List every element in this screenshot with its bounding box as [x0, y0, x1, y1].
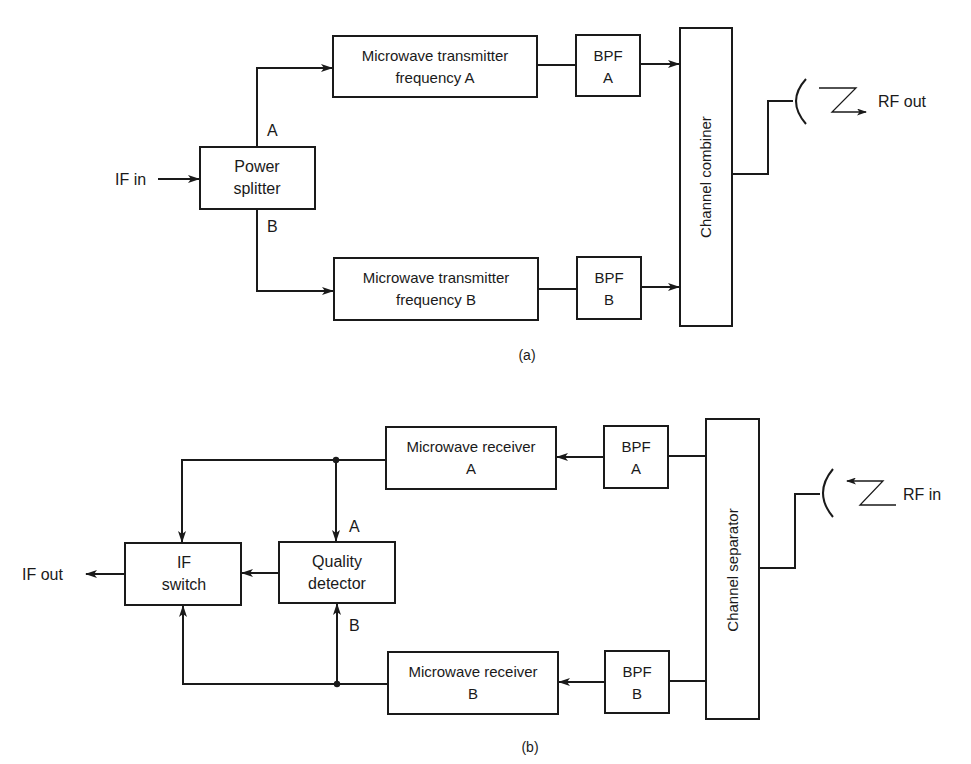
- rf-out-lightning-icon: [819, 88, 866, 112]
- transmitter-a-block: Microwave transmitter frequency A: [333, 36, 537, 97]
- diversity-block-diagram: IF in Power splitter A B Microwave trans…: [0, 0, 971, 764]
- receiver-b-block: Microwave receiver B: [388, 652, 558, 714]
- bpf-b-rx-line1: BPF: [622, 663, 651, 680]
- bpf-a-rx-line2: A: [631, 460, 641, 477]
- transmitter-b-line2: frequency B: [396, 291, 476, 308]
- bpf-a-tx-line2: A: [603, 69, 613, 86]
- channel-combiner-block: Channel combiner: [680, 28, 732, 326]
- figure-b-receiver: Channel separator RF in BPF A BPF B Micr…: [22, 419, 941, 755]
- rf-in-lightning-icon: [847, 481, 896, 505]
- bpf-a-tx-block: BPF A: [576, 35, 640, 96]
- channel-separator-label: Channel separator: [724, 508, 741, 631]
- power-splitter-line2: splitter: [233, 180, 281, 197]
- receiver-a-line1: Microwave receiver: [406, 438, 535, 455]
- if-in-label: IF in: [115, 171, 146, 188]
- tx-antenna-feed: [732, 101, 793, 174]
- if-out-label: IF out: [22, 566, 63, 583]
- detector-input-b-label: B: [349, 617, 360, 634]
- bpf-b-rx-line2: B: [632, 685, 642, 702]
- receiver-a-block: Microwave receiver A: [386, 427, 556, 489]
- transmitter-a-line1: Microwave transmitter: [362, 47, 509, 64]
- if-switch-line1: IF: [177, 554, 191, 571]
- if-switch-line2: switch: [162, 576, 206, 593]
- quality-detector-block: Quality detector: [279, 542, 395, 603]
- quality-detector-line1: Quality: [312, 553, 362, 570]
- branch-a-label: A: [267, 122, 278, 139]
- rf-in-label: RF in: [903, 486, 941, 503]
- transmitter-a-line2: frequency A: [395, 69, 474, 86]
- junction-dot-b: [334, 681, 340, 687]
- bpf-a-tx-line1: BPF: [593, 47, 622, 64]
- transmitter-b-block: Microwave transmitter frequency B: [334, 258, 538, 320]
- bpf-a-rx-block: BPF A: [604, 426, 668, 488]
- rf-out-label: RF out: [878, 93, 927, 110]
- power-splitter-line1: Power: [234, 158, 280, 175]
- receiver-b-line2: B: [468, 685, 478, 702]
- receiver-b-line1: Microwave receiver: [408, 663, 537, 680]
- bpf-b-tx-block: BPF B: [577, 257, 641, 319]
- junction-dot-a: [333, 457, 339, 463]
- transmitter-b-line1: Microwave transmitter: [363, 269, 510, 286]
- bpf-b-tx-line2: B: [604, 291, 614, 308]
- figure-a-caption: (a): [518, 347, 535, 363]
- quality-detector-line2: detector: [308, 575, 366, 592]
- power-splitter-block: Power splitter: [200, 147, 315, 209]
- rx-antenna-dish-icon: [823, 469, 833, 517]
- receiver-a-line2: A: [466, 460, 476, 477]
- bpf-b-tx-line1: BPF: [594, 269, 623, 286]
- figure-b-caption: (b): [521, 739, 538, 755]
- if-switch-block: IF switch: [125, 543, 241, 605]
- bpf-b-rx-block: BPF B: [605, 651, 669, 713]
- rx-antenna-feed: [759, 494, 820, 568]
- tx-antenna-dish-icon: [796, 79, 806, 124]
- branch-b-label: B: [267, 218, 278, 235]
- channel-combiner-label: Channel combiner: [697, 116, 714, 238]
- channel-separator-block: Channel separator: [706, 419, 759, 719]
- detector-input-a-label: A: [349, 518, 360, 535]
- figure-a-transmitter: IF in Power splitter A B Microwave trans…: [115, 28, 927, 363]
- bpf-a-rx-line1: BPF: [621, 438, 650, 455]
